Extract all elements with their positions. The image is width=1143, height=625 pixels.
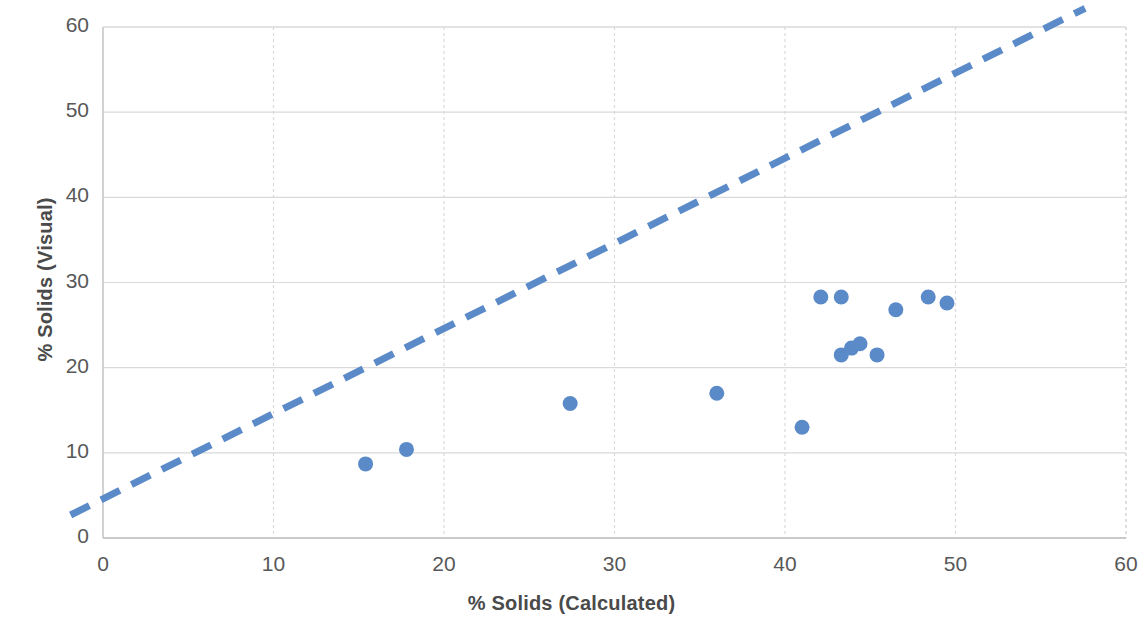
x-tick-label: 10 (244, 552, 304, 576)
x-tick-label: 20 (414, 552, 474, 576)
data-points (358, 289, 954, 471)
data-point (813, 289, 828, 304)
data-point (853, 336, 868, 351)
x-tick-label: 60 (1096, 552, 1143, 576)
x-axis-title: % Solids (Calculated) (0, 592, 1143, 615)
y-tick-label: 60 (29, 13, 89, 37)
y-tick-label: 50 (29, 98, 89, 122)
data-point (834, 289, 849, 304)
plot-canvas (0, 0, 1143, 625)
data-point (709, 386, 724, 401)
data-point (939, 295, 954, 310)
data-point (795, 420, 810, 435)
data-point (399, 442, 414, 457)
data-point (563, 396, 578, 411)
scatter-chart: 01020304050600102030405060 % Solids (Cal… (0, 0, 1143, 625)
x-tick-label: 0 (73, 552, 133, 576)
y-axis-title: % Solids (Visual) (34, 140, 57, 420)
grid-lines (103, 27, 1126, 538)
x-tick-label: 40 (755, 552, 815, 576)
x-tick-label: 50 (926, 552, 986, 576)
data-point (870, 347, 885, 362)
y-tick-label: 10 (29, 439, 89, 463)
reference-line (71, 8, 1085, 515)
data-point (888, 302, 903, 317)
data-point (358, 456, 373, 471)
data-point (921, 289, 936, 304)
y-tick-label: 0 (29, 524, 89, 548)
x-tick-label: 30 (585, 552, 645, 576)
